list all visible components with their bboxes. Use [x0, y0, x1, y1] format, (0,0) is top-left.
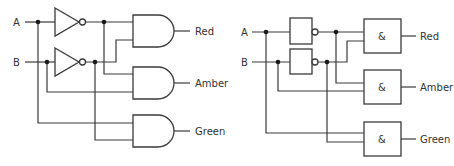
output-label-amber: Amber — [195, 78, 229, 89]
output-label-green: Green — [420, 134, 450, 145]
and-symbol: & — [378, 82, 386, 93]
right-diagram: A B & & — [241, 18, 454, 156]
junction-dot — [45, 60, 50, 65]
and-gate-green — [133, 115, 174, 147]
not-gate-a — [55, 8, 86, 36]
junction-dot — [264, 30, 269, 35]
junction-dot — [36, 20, 41, 25]
and-gate-amber — [133, 67, 174, 99]
output-label-green: Green — [195, 126, 225, 137]
wire-a-to-green — [38, 22, 133, 123]
not-gate-b — [55, 48, 86, 76]
wire-not-b — [318, 41, 364, 62]
and-symbol: & — [378, 134, 386, 145]
and-gate-amber: & — [364, 70, 401, 104]
inversion-bubble — [80, 19, 86, 25]
output-label-red: Red — [420, 31, 439, 42]
logic-diagrams-canvas: A B Red — [0, 0, 454, 166]
and-gate-red — [133, 15, 174, 47]
inversion-bubble — [80, 59, 86, 65]
output-label-red: Red — [195, 26, 214, 37]
and-gate-red: & — [364, 19, 401, 53]
and-gate-green: & — [364, 122, 401, 156]
inversion-bubble — [312, 59, 318, 65]
left-diagram: A B Red — [13, 8, 229, 147]
wire-not-a-to-amber — [336, 32, 364, 83]
junction-dot — [102, 20, 107, 25]
junction-dot — [334, 30, 339, 35]
inversion-bubble — [312, 29, 318, 35]
input-label-b: B — [241, 57, 248, 68]
wire-not-a-to-amber — [104, 22, 133, 74]
junction-dot — [325, 60, 330, 65]
not-gate-a — [290, 18, 318, 44]
junction-dot — [276, 60, 281, 65]
junction-dot — [93, 60, 98, 65]
not-gate-b — [290, 49, 318, 74]
input-label-b: B — [13, 57, 20, 68]
and-symbol: & — [378, 31, 386, 42]
input-label-a: A — [241, 27, 248, 38]
input-label-a: A — [13, 17, 20, 28]
wire-not-b — [86, 40, 133, 62]
output-label-amber: Amber — [420, 82, 454, 93]
wire-not-b-to-green — [327, 62, 364, 142]
